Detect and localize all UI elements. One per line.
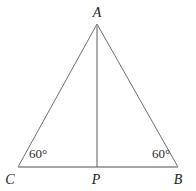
angle-label-left: 60° xyxy=(29,146,47,161)
foot-label-p: P xyxy=(91,172,101,187)
vertex-label-a: A xyxy=(92,5,102,20)
vertex-label-b: B xyxy=(174,172,183,187)
angle-label-right: 60° xyxy=(152,146,170,161)
vertex-label-c: C xyxy=(5,172,15,187)
geometry-figure: A C B P 60° 60° xyxy=(0,0,196,191)
triangle-svg: A C B P 60° 60° xyxy=(0,0,196,191)
